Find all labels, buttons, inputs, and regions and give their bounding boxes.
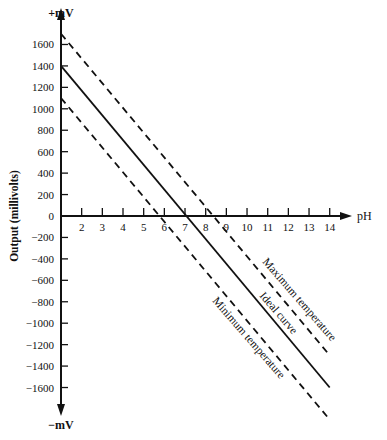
x-tick-label: 10 [242, 221, 254, 233]
x-axis-label: pH [357, 209, 372, 223]
y-axis-title: Output (millivolts) [8, 170, 21, 262]
y-tick-label: 800 [38, 124, 55, 136]
y-tick-label: 1600 [32, 38, 55, 50]
y-tick-label: 0 [49, 210, 55, 222]
x-tick-label: 13 [304, 221, 316, 233]
y-tick-label: −1200 [26, 339, 55, 351]
x-tick-label: 5 [141, 221, 147, 233]
line-minimum-temperature [61, 98, 330, 420]
x-axis-right-arrow-icon [340, 212, 352, 220]
x-tick-label: 2 [79, 221, 85, 233]
y-tick-label: −600 [31, 274, 54, 286]
x-tick-label: 12 [283, 221, 294, 233]
y-axis-top-label: +mV [48, 6, 74, 20]
y-tick-label: 200 [38, 189, 55, 201]
y-tick-label: −200 [31, 231, 54, 243]
y-tick-label: 400 [38, 167, 55, 179]
y-axis-down-arrow-icon [57, 404, 65, 416]
line-maximum-temperature [61, 34, 330, 356]
y-tick-label: −1400 [26, 360, 55, 372]
y-axis-bottom-label: −mV [48, 418, 74, 432]
y-tick-label: 1200 [32, 81, 55, 93]
ph-millivolt-chart: 2345678910111213141600140012001000800600… [0, 0, 387, 440]
x-tick-label: 3 [100, 221, 106, 233]
x-tick-label: 4 [120, 221, 126, 233]
y-tick-label: 1000 [32, 103, 55, 115]
x-tick-label: 7 [182, 221, 188, 233]
y-tick-label: −800 [31, 296, 54, 308]
y-tick-label: −1000 [26, 317, 55, 329]
y-tick-label: 1400 [32, 60, 55, 72]
y-tick-label: −1600 [26, 382, 55, 394]
y-tick-label: −400 [31, 253, 54, 265]
x-tick-label: 14 [324, 221, 336, 233]
y-tick-label: 600 [38, 146, 55, 158]
x-tick-label: 11 [262, 221, 273, 233]
x-tick-label: 8 [203, 221, 209, 233]
